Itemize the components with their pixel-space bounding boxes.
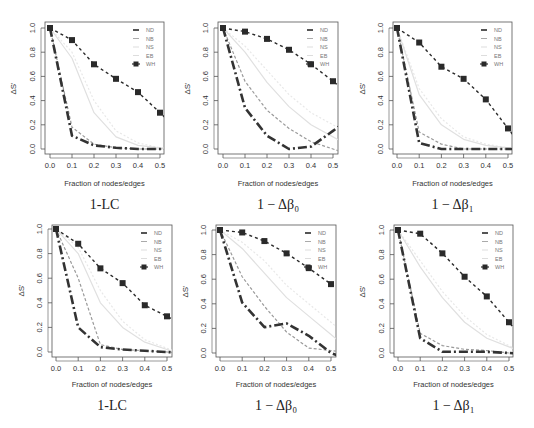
legend: NDNBNSEBWH xyxy=(132,27,155,67)
x-axis: 0.00.10.20.30.40.5 xyxy=(215,357,336,373)
legend-label-ns: NS xyxy=(320,44,328,50)
plot-area xyxy=(393,22,512,154)
x-tick-label: 0.5 xyxy=(155,161,165,170)
y-tick-label: 0.0 xyxy=(28,144,37,154)
legend-label-eb: EB xyxy=(320,53,328,59)
legend-label-wh: WH xyxy=(146,61,155,67)
x-tick-label: 0.5 xyxy=(326,364,336,373)
y-axis-label: ΔS' xyxy=(17,284,26,297)
y-tick-label: 0.8 xyxy=(199,249,208,259)
panel-caption: 1 − Δβ₁ xyxy=(431,197,473,212)
wh-marker xyxy=(462,274,468,280)
legend-label-nd: ND xyxy=(495,230,503,236)
wh-marker xyxy=(239,229,245,235)
wh-marker xyxy=(113,76,119,82)
y-tick-label: 0.8 xyxy=(28,47,37,57)
x-tick-label: 0.4 xyxy=(304,364,314,373)
panel-caption: 1 − Δβ₀ xyxy=(255,398,297,413)
wh-marker xyxy=(97,265,103,271)
y-axis: 0.00.20.40.60.81.0 xyxy=(35,224,52,357)
x-tick-label: 0.2 xyxy=(436,161,446,170)
y-tick-label: 0.6 xyxy=(199,274,208,284)
panel-caption: 1 − Δβ₀ xyxy=(257,197,299,212)
chart-panel-3: 0.00.10.20.30.40.50.00.20.40.60.81.0ΔS'F… xyxy=(358,22,515,212)
y-tick-label: 0.2 xyxy=(201,120,210,130)
y-tick-label: 0.6 xyxy=(35,273,44,283)
x-axis-label: Fraction of nodes/edges xyxy=(238,179,319,188)
y-tick-label: 0.8 xyxy=(376,47,385,57)
y-tick-label: 0.4 xyxy=(199,299,208,309)
y-tick-label: 1.0 xyxy=(376,23,385,33)
x-tick-label: 0.5 xyxy=(328,161,338,170)
wh-marker xyxy=(416,40,422,46)
x-axis-label: Fraction of nodes/edges xyxy=(413,380,494,389)
x-tick-label: 0.4 xyxy=(482,364,492,373)
x-tick-label: 0.0 xyxy=(392,161,402,170)
x-tick-label: 0.5 xyxy=(504,364,514,373)
y-tick-label: 0.2 xyxy=(28,120,37,130)
y-tick-label: 0.6 xyxy=(377,274,386,284)
legend-label-eb: EB xyxy=(495,256,503,262)
legend: NDNBNSEBWH xyxy=(480,27,503,67)
legend-label-nd: ND xyxy=(318,230,326,236)
x-axis: 0.00.10.20.30.40.5 xyxy=(45,154,165,170)
y-tick-label: 1.0 xyxy=(35,224,44,234)
y-tick-label: 1.0 xyxy=(201,23,210,33)
legend-label-nb: NB xyxy=(495,239,503,245)
y-tick-label: 0.8 xyxy=(201,47,210,57)
wh-marker xyxy=(438,64,444,70)
wh-marker xyxy=(91,61,97,67)
y-tick-label: 0.0 xyxy=(199,348,208,358)
y-tick-label: 0.4 xyxy=(35,298,44,308)
legend: NDNBNSEBWH xyxy=(140,230,163,270)
y-axis: 0.00.20.40.60.81.0 xyxy=(199,225,216,358)
x-tick-label: 0.2 xyxy=(262,161,272,170)
y-tick-label: 0.4 xyxy=(201,95,210,105)
x-tick-label: 0.3 xyxy=(117,364,127,373)
y-tick-label: 0.6 xyxy=(201,71,210,81)
y-axis: 0.00.20.40.60.81.0 xyxy=(376,23,393,154)
chart-panel-1: 0.00.10.20.30.40.50.00.20.40.60.81.0ΔS'F… xyxy=(9,22,167,212)
wh-marker xyxy=(330,78,336,84)
legend-label-wh: WH xyxy=(318,264,327,270)
x-tick-label: 0.2 xyxy=(437,364,447,373)
x-tick-label: 0.3 xyxy=(284,161,294,170)
wh-marker xyxy=(439,250,445,256)
legend-label-ns: NS xyxy=(318,247,326,253)
x-tick-label: 0.4 xyxy=(306,161,316,170)
series-group xyxy=(53,226,174,352)
legend-label-wh: WH xyxy=(494,61,503,67)
y-tick-label: 0.2 xyxy=(376,120,385,130)
x-tick-label: 0.0 xyxy=(215,364,225,373)
x-tick-label: 0.3 xyxy=(458,161,468,170)
y-tick-label: 0.8 xyxy=(35,248,44,258)
y-axis-label: ΔS' xyxy=(9,82,18,95)
x-tick-label: 0.0 xyxy=(218,161,228,170)
legend-label-eb: EB xyxy=(318,256,326,262)
x-tick-label: 0.1 xyxy=(415,364,425,373)
x-axis-label: Fraction of nodes/edges xyxy=(412,179,493,188)
y-axis-label: ΔS' xyxy=(358,82,367,95)
wh-marker xyxy=(69,37,75,43)
y-tick-label: 1.0 xyxy=(377,225,386,235)
y-axis: 0.00.20.40.60.81.0 xyxy=(28,23,45,154)
wh-marker xyxy=(75,241,81,247)
wh-marker xyxy=(461,76,467,82)
x-axis-label: Fraction of nodes/edges xyxy=(64,179,145,188)
legend-label-nb: NB xyxy=(154,239,162,245)
wh-marker xyxy=(395,227,401,233)
x-tick-label: 0.0 xyxy=(51,364,61,373)
wh-marker xyxy=(53,226,59,232)
legend-label-ns: NS xyxy=(154,247,162,253)
y-tick-label: 0.2 xyxy=(35,322,44,332)
x-axis-label: Fraction of nodes/edges xyxy=(72,380,153,389)
panel-caption: 1 − Δβ₁ xyxy=(432,398,474,413)
legend-label-wh: WH xyxy=(154,264,163,270)
chart-panel-5: 0.00.10.20.30.40.50.00.20.40.60.81.0ΔS'F… xyxy=(181,225,338,413)
wh-marker xyxy=(506,319,512,325)
y-tick-label: 0.4 xyxy=(377,299,386,309)
legend-label-eb: EB xyxy=(146,53,154,59)
x-tick-label: 0.2 xyxy=(95,364,105,373)
x-tick-label: 0.3 xyxy=(281,364,291,373)
x-axis: 0.00.10.20.30.40.5 xyxy=(218,154,338,170)
